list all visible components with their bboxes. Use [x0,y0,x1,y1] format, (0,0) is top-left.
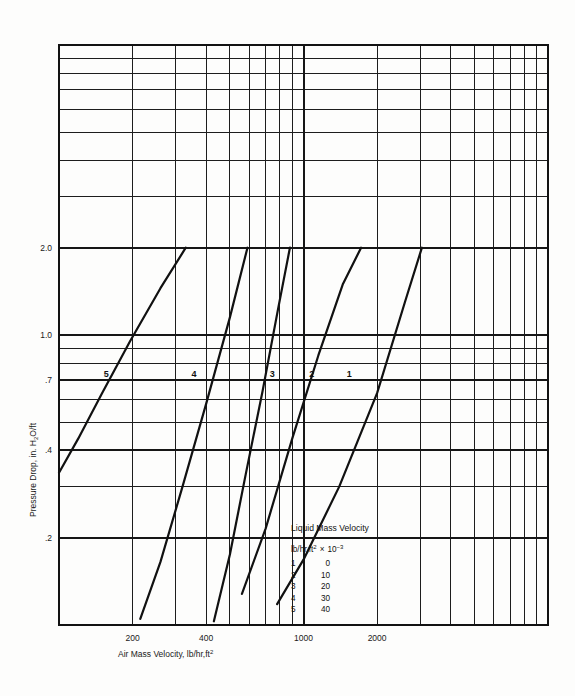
legend-value: 20 [321,582,331,591]
curve-label-3: 3 [270,369,275,379]
chart-figure: 12345 2.01.0.7.4.2 20040010002000 Pressu… [0,0,575,696]
legend-key: 3 [291,582,296,591]
legend-key: 5 [291,605,296,614]
legend-header-power-base: 10 [327,545,337,554]
y-axis-title: Pressure Drop, in. H2O/ft [28,422,39,517]
legend-key: 2 [291,571,296,580]
legend-value: 10 [321,571,331,580]
curve-label-5: 5 [104,369,109,379]
y-tick-label: 1.0 [40,330,52,340]
y-axis-title-post: O/ft [28,422,38,436]
x-tick-label: 400 [199,633,213,643]
x-tick-label: 200 [126,633,140,643]
y-axis-title-pre: Pressure Drop, in. H [28,440,38,517]
x-tick-label: 2000 [368,633,387,643]
legend-title: Liquid Mass Velocity [291,523,370,533]
x-axis-title: Air Mass Velocity, lb/hr,ft2 [118,649,214,659]
y-tick-label: .7 [45,375,52,385]
pressure-drop-chart: 12345 2.01.0.7.4.2 20040010002000 Pressu… [0,0,575,696]
legend-value: 0 [325,559,330,568]
curve-label-2: 2 [309,369,314,379]
legend-key: 4 [291,594,296,603]
curve-label-1: 1 [347,369,352,379]
legend-value: 40 [321,605,331,614]
legend-value: 30 [321,594,331,603]
y-tick-label: .4 [45,445,52,455]
y-tick-label: .2 [45,533,52,543]
legend-header-power-exponent: −3 [337,544,345,550]
x-tick-label: 1000 [294,633,313,643]
curve-label-4: 4 [192,369,197,379]
y-tick-label: 2.0 [40,243,52,253]
legend-key: 1 [291,559,296,568]
legend-header-main: lb/hr,ft [291,545,314,554]
x-axis-title-main: Air Mass Velocity, lb/hr,ft [118,649,211,659]
legend-header-mult: × [320,545,325,554]
